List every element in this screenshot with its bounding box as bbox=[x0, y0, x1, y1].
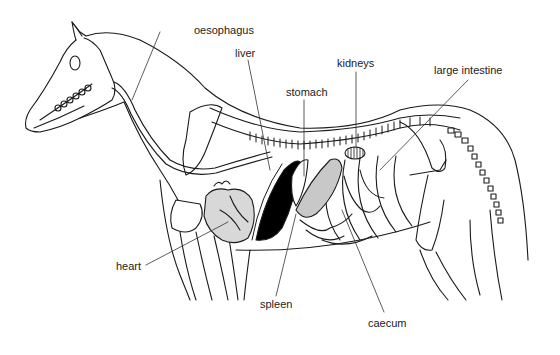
scapula bbox=[183, 105, 222, 175]
label-liver: liver bbox=[235, 47, 255, 59]
eye-socket bbox=[70, 56, 80, 70]
ear bbox=[72, 22, 82, 40]
label-oesophagus: oesophagus bbox=[194, 24, 254, 36]
label-stomach: stomach bbox=[286, 86, 328, 98]
hind-leg bbox=[416, 175, 444, 250]
front-leg bbox=[171, 200, 203, 232]
leader-oesophagus bbox=[132, 32, 160, 100]
body-outline bbox=[72, 22, 528, 260]
leader-caecum bbox=[342, 210, 384, 312]
neck-underside bbox=[80, 102, 178, 200]
label-spleen: spleen bbox=[260, 298, 292, 310]
skull-line bbox=[34, 84, 92, 128]
label-heart: heart bbox=[116, 260, 141, 272]
label-caecum: caecum bbox=[368, 317, 407, 329]
vertebrae bbox=[250, 117, 430, 149]
heart-organ bbox=[204, 181, 254, 243]
tail-vertebrae bbox=[448, 128, 503, 223]
pelvis bbox=[400, 122, 446, 172]
label-large-intestine: large intestine bbox=[434, 64, 503, 76]
spine bbox=[210, 108, 460, 132]
leader-large-intestine bbox=[380, 80, 468, 170]
label-kidneys: kidneys bbox=[337, 57, 374, 69]
head-outline bbox=[26, 38, 116, 132]
horse-anatomy-diagram: oesophagus liver stomach kidneys large i… bbox=[0, 0, 560, 355]
kidney-organ bbox=[345, 147, 365, 159]
